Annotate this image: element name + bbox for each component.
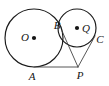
center-dot-q <box>75 26 79 30</box>
center-dot-o <box>32 36 36 40</box>
label-o: O <box>21 31 29 43</box>
geometry-figure: O B Q C A P <box>0 0 109 86</box>
label-q: Q <box>82 22 90 34</box>
segment-c-p <box>78 36 95 67</box>
label-b: B <box>54 19 61 31</box>
label-p: P <box>76 69 84 81</box>
label-a: A <box>28 70 36 82</box>
label-c: C <box>96 33 104 45</box>
figure-canvas: O B Q C A P <box>0 0 109 86</box>
segment-b-p <box>62 31 78 67</box>
